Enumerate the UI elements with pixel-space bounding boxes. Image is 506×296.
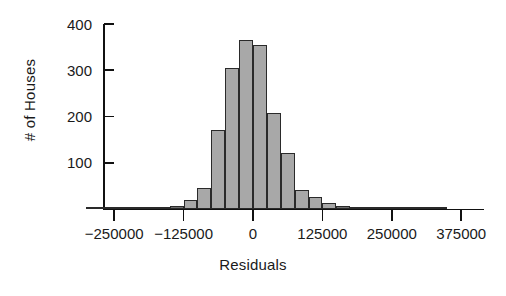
histogram-bar bbox=[184, 200, 198, 209]
histogram-bar bbox=[322, 203, 336, 209]
histogram-bar bbox=[225, 68, 239, 209]
histogram-bar bbox=[86, 207, 100, 209]
x-axis-tick bbox=[460, 210, 462, 221]
histogram-bar bbox=[239, 40, 253, 209]
histogram-bar bbox=[406, 207, 420, 209]
histogram-bar bbox=[267, 113, 281, 209]
histogram-bar bbox=[281, 153, 295, 209]
histogram-figure: 100200300400 −250000−1250000125000250000… bbox=[0, 0, 506, 296]
histogram-bar bbox=[128, 207, 142, 209]
histogram-bar bbox=[100, 207, 114, 209]
x-axis-tick-label: 375000 bbox=[401, 226, 506, 242]
histogram-bar bbox=[142, 207, 156, 209]
histogram-bar bbox=[350, 207, 364, 209]
y-axis-tick bbox=[104, 116, 114, 118]
x-axis-tick bbox=[113, 210, 115, 221]
histogram-bar bbox=[433, 207, 447, 209]
histogram-bar bbox=[420, 207, 434, 209]
x-axis-tick bbox=[322, 210, 324, 221]
histogram-bar bbox=[156, 207, 170, 209]
y-axis-label: # of Houses bbox=[16, 0, 44, 200]
plot-area: 100200300400 −250000−1250000125000250000… bbox=[0, 0, 506, 296]
histogram-bar bbox=[364, 207, 378, 209]
histogram-bar bbox=[211, 130, 225, 209]
histogram-bar bbox=[392, 207, 406, 209]
histogram-bar bbox=[170, 206, 184, 209]
histogram-bar bbox=[378, 207, 392, 209]
y-axis-tick bbox=[104, 162, 114, 164]
x-axis-tick bbox=[252, 210, 254, 221]
histogram-bar bbox=[114, 207, 128, 209]
histogram-bar bbox=[336, 206, 350, 209]
x-axis-tick bbox=[183, 210, 185, 221]
y-axis-tick bbox=[104, 69, 114, 71]
histogram-bar bbox=[295, 190, 309, 209]
y-axis-tick bbox=[104, 23, 114, 25]
x-axis-label: Residuals bbox=[0, 256, 506, 273]
histogram-bar bbox=[253, 45, 267, 209]
histogram-bar bbox=[197, 188, 211, 209]
x-axis-tick bbox=[391, 210, 393, 221]
histogram-bar bbox=[309, 197, 323, 209]
